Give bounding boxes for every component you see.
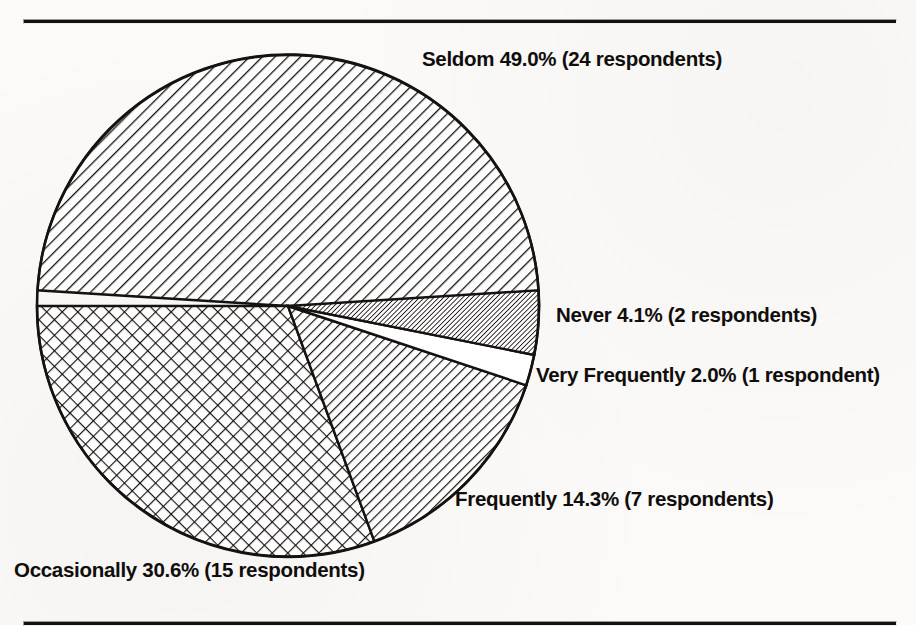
pie-label-occasionally: Occasionally 30.6% (15 respondents) (14, 558, 365, 582)
pie-slice-seldom (37, 54, 539, 306)
bottom-divider-rule (23, 621, 897, 626)
pie-label-seldom: Seldom 49.0% (24 respondents) (422, 47, 722, 71)
pie-label-very-frequently: Very Frequently 2.0% (1 respondent) (536, 363, 880, 387)
pie-label-never: Never 4.1% (2 respondents) (556, 303, 817, 327)
pie-label-frequently: Frequently 14.3% (7 respondents) (455, 487, 773, 511)
